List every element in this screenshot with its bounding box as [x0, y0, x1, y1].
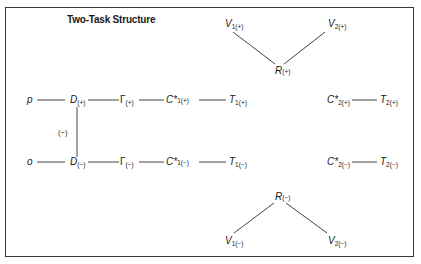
node-R-plus: R(+): [275, 66, 290, 77]
inhibition-label: (−): [58, 128, 67, 137]
node-R-minus: R(−): [275, 192, 290, 203]
node-V1-plus: V1(+): [225, 19, 243, 30]
node-gamma-minus: Γ(−): [120, 157, 134, 168]
node-p: p: [27, 95, 33, 105]
node-V1-minus: V1(−): [225, 236, 243, 247]
node-C2-plus: C*2(+): [327, 95, 350, 106]
node-o: o: [27, 157, 33, 167]
node-D-minus: D(−): [70, 157, 85, 168]
node-C2-minus: C*2(−): [327, 157, 350, 168]
node-T1-minus: T1(−): [229, 157, 247, 168]
node-C1-plus: C*1(+): [166, 95, 189, 106]
edge-R-V1-minus: [234, 203, 274, 233]
node-V2-plus: V2(+): [328, 19, 346, 30]
node-T2-minus: T2(−): [380, 157, 398, 168]
edge-V2-R-plus: [284, 32, 325, 64]
edge-V1-R-plus: [233, 32, 275, 64]
node-gamma-plus: Γ(+): [120, 95, 134, 106]
node-C1-minus: C*1(−): [166, 157, 189, 168]
node-V2-minus: V2(−): [328, 236, 346, 247]
node-D-plus: D(+): [70, 95, 85, 106]
node-T2-plus: T2(+): [380, 95, 398, 106]
node-T1-plus: T1(+): [229, 95, 247, 106]
edge-R-V2-minus: [286, 203, 327, 233]
